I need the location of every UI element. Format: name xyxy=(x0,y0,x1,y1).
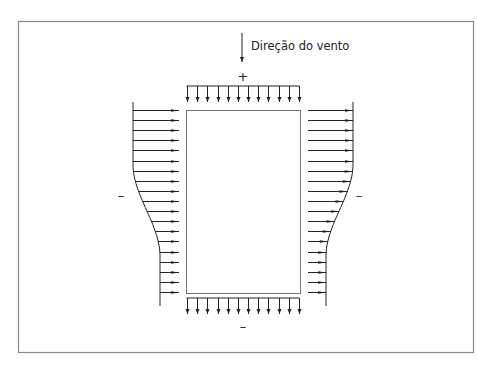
bottom-suction-sign: – xyxy=(240,319,247,334)
left-pressure-envelope xyxy=(133,102,160,306)
wind-direction-label: Direção do vento xyxy=(251,39,349,53)
left-suction-arrows xyxy=(133,102,179,306)
right-suction-sign: – xyxy=(356,188,363,203)
wind-direction-indicator: Direção do vento xyxy=(242,33,349,62)
right-pressure-envelope xyxy=(326,102,353,306)
right-suction-arrows xyxy=(308,102,353,306)
bottom-suction-arrows xyxy=(187,298,300,314)
building-outline xyxy=(187,111,301,294)
wind-pressure-diagram: Direção do vento + – – – xyxy=(0,0,478,367)
top-pressure-arrows xyxy=(187,86,300,102)
top-pressure-sign: + xyxy=(238,69,249,84)
left-suction-sign: – xyxy=(118,188,125,203)
